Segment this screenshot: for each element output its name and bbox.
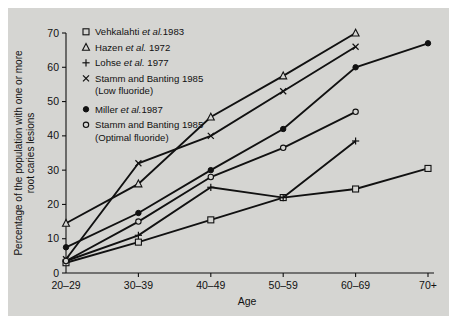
legend-label-5: Stamm and Banting 1985 [95,119,203,130]
series-line [66,168,428,262]
data-point-marker-filled-circle [208,167,213,172]
legend-marker-open-square [83,29,89,35]
data-point-marker-filled-circle [83,107,88,112]
legend-label-2: Lohse et al. 1977 [95,57,169,68]
data-point-marker-filled-circle [136,210,141,215]
legend-label-4: Miller et al.1987 [95,104,163,115]
data-point-marker-open-circle [63,258,68,263]
legend-marker-open-circle [83,122,88,127]
data-point-marker-open-square [83,29,89,35]
y-tick-label: 30 [47,164,59,176]
x-tick-label: 50–59 [269,279,298,291]
legend-marker-open-triangle [83,44,90,51]
legend-marker-filled-circle [83,107,88,112]
legend-label-3: Stamm and Banting 1985 [95,73,203,84]
data-point-marker-open-circle [136,219,141,224]
data-point-marker-open-square [208,217,214,223]
x-axis: 20–2930–3940–4950–5960–6970+ [51,273,437,291]
data-point-marker-cross [280,88,286,94]
y-axis-title-line2: root caries lesions [25,113,36,194]
chart-plot-area: 01020304050607020–2930–3940–4950–5960–69… [8,8,449,316]
data-point-marker-filled-circle [425,41,430,46]
data-point-marker-cross [353,44,359,50]
legend-sublabel-5: (Optimal fluoride) [95,132,169,143]
legend-label-1: Hazen et al. 1972 [95,42,170,53]
x-tick-label: 70+ [419,279,437,291]
legend: Vehkalahti et al.1983Hazen et al. 1972Lo… [82,26,203,143]
y-axis: 010203040506070 [47,27,66,279]
figure-panel: 01020304050607020–2930–3940–4950–5960–69… [8,8,449,316]
x-tick-label: 30–39 [124,279,153,291]
y-tick-label: 10 [47,232,59,244]
data-point-marker-open-circle [208,174,213,179]
x-tick-label: 20–29 [51,279,80,291]
data-point-marker-open-square [353,186,359,192]
series-0 [63,165,431,265]
y-tick-label: 70 [47,27,59,39]
y-tick-label: 20 [47,198,59,210]
data-point-marker-cross [83,75,89,81]
y-tick-label: 0 [53,267,59,279]
legend-sublabel-3: (Low fluoride) [95,85,153,96]
data-point-marker-filled-circle [353,65,358,70]
legend-marker-plus [82,59,89,66]
data-point-marker-open-circle [83,122,88,127]
legend-label-0: Vehkalahti et al.1983 [95,26,184,37]
data-point-marker-filled-circle [63,245,68,250]
data-point-marker-filled-circle [281,126,286,131]
data-point-marker-open-circle [353,109,358,114]
data-point-marker-open-circle [281,145,286,150]
y-tick-label: 50 [47,95,59,107]
y-tick-label: 40 [47,129,59,141]
x-axis-title: Age [238,295,257,307]
data-point-marker-open-square [135,239,141,245]
line-chart: 01020304050607020–2930–3940–4950–5960–69… [8,8,449,316]
data-point-marker-open-triangle [83,44,90,51]
data-point-marker-open-square [425,165,431,171]
x-tick-label: 40–49 [196,279,225,291]
legend-marker-cross [83,75,89,81]
y-axis-title-line1: Percentage of the population with one or… [13,50,24,256]
x-tick-label: 60–69 [341,279,370,291]
data-point-marker-plus [82,59,89,66]
data-point-marker-open-triangle [352,29,359,36]
y-tick-label: 60 [47,61,59,73]
